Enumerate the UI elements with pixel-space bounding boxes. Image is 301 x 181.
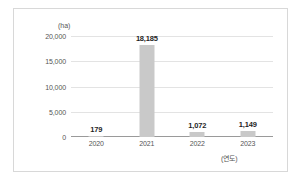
bar-group-2023: 1,149 [223, 36, 274, 137]
x-tick-label: 2021 [139, 140, 154, 147]
x-axis-tick-labels: 2020 2021 2022 2023 [71, 137, 273, 151]
x-tick-slot: 2022 [172, 137, 223, 151]
x-tick-slot: 2020 [71, 137, 122, 151]
plot-area: 179 18,185 1,072 1,149 [71, 36, 273, 137]
bar-group-2022: 1,072 [172, 36, 223, 137]
bar-value-label: 179 [90, 125, 102, 134]
y-tick-label: 20,000 [45, 33, 66, 40]
x-tick-label: 2020 [89, 140, 104, 147]
x-tick-slot: 2023 [223, 137, 274, 151]
x-tick-label: 2022 [190, 140, 205, 147]
chart-frame: (ha) 20,000 15,000 10,000 5,000 0 179 18… [13, 8, 288, 172]
y-tick-label: 15,000 [45, 58, 66, 65]
bar-group-2021: 18,185 [122, 36, 173, 137]
x-tick-slot: 2021 [122, 137, 173, 151]
y-tick-label: 10,000 [45, 83, 66, 90]
bar-value-label: 1,149 [239, 120, 257, 129]
y-tick-label: 5,000 [49, 108, 66, 115]
y-axis-tick-labels: 20,000 15,000 10,000 5,000 0 [14, 36, 71, 137]
bar-value-label: 18,185 [136, 34, 158, 43]
y-tick-label: 0 [62, 134, 66, 141]
bar-value-label: 1,072 [188, 121, 206, 130]
bar[interactable] [139, 45, 154, 137]
y-axis-unit-label: (ha) [58, 22, 70, 29]
x-tick-label: 2023 [240, 140, 255, 147]
bar-group-2020: 179 [71, 36, 122, 137]
x-axis-unit-label: (연도) [221, 153, 238, 163]
